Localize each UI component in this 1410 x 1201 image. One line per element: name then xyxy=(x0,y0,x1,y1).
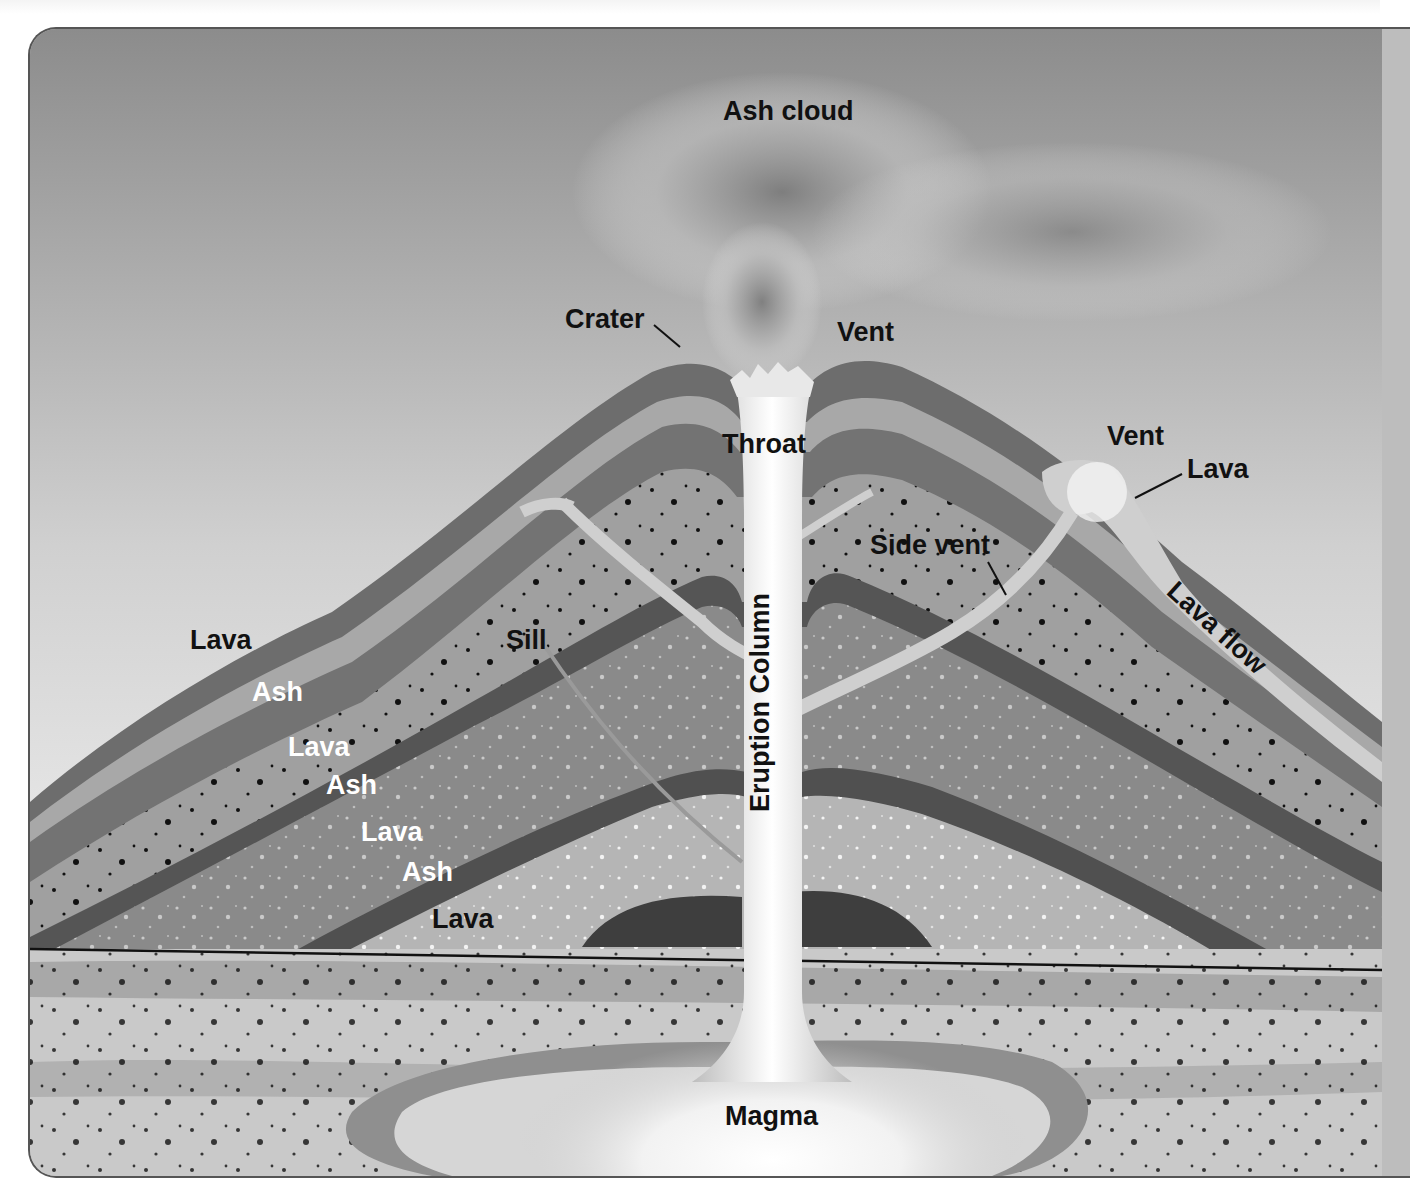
label-ash-cloud: Ash cloud xyxy=(723,98,854,125)
label-magma: Magma xyxy=(725,1103,818,1130)
label-stratum-lava-2: Lava xyxy=(288,734,350,761)
label-stratum-lava-3: Lava xyxy=(361,819,423,846)
label-lava-side: Lava xyxy=(1187,456,1249,483)
label-throat: Throat xyxy=(722,431,806,458)
volcano-diagram: Ash cloud Crater Vent Throat Vent Lava S… xyxy=(28,27,1410,1178)
label-stratum-lava-1: Lava xyxy=(190,627,252,654)
label-crater: Crater xyxy=(565,306,645,333)
label-side-vent: Side vent xyxy=(870,532,990,559)
top-strip xyxy=(0,0,1380,14)
label-eruption-column: Eruption Column xyxy=(747,593,774,812)
label-sill: Sill xyxy=(506,627,547,654)
label-stratum-lava-4: Lava xyxy=(432,906,494,933)
label-vent-side: Vent xyxy=(1107,423,1164,450)
label-stratum-ash-3: Ash xyxy=(402,859,453,886)
label-stratum-ash-2: Ash xyxy=(326,772,377,799)
label-stratum-ash-1: Ash xyxy=(252,679,303,706)
label-vent-top: Vent xyxy=(837,319,894,346)
